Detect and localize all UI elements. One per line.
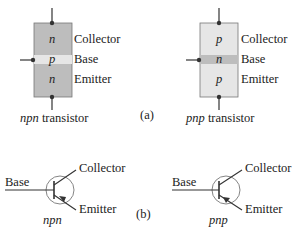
npn-symbol-caption: npn [43,213,62,227]
part-a-label: (a) [140,108,154,122]
npn-symbol-collector: Collector [79,161,126,175]
npn-emitter-label: Emitter [74,72,112,86]
pnp-symbol-caption: pnp [208,213,228,227]
pnp-collector-label: Collector [241,32,288,46]
npn-symbol-emitter: Emitter [79,202,117,216]
pnp-layer-emitter: p [215,72,222,86]
pnp-layer-collector: p [215,32,222,46]
pnp-symbol-base: Base [172,175,197,189]
npn-base-label: Base [74,52,99,66]
npn-block: n p n Collector Base Emitter npn transis… [20,8,121,125]
pnp-base-label: Base [241,52,266,66]
npn-layer-collector: n [49,32,55,46]
npn-symbol-base: Base [5,175,30,189]
pnp-caption: pnp transistor [185,111,255,125]
part-b-label: (b) [136,207,151,221]
pnp-symbol-collector: Collector [245,161,292,175]
npn-symbol: Base Collector Emitter npn [5,161,126,227]
pnp-symbol-emitter: Emitter [245,202,283,216]
pnp-layer-base: n [216,52,222,66]
npn-caption: npn transistor [20,111,89,125]
pnp-symbol: Base Collector Emitter pnp [172,161,292,227]
transistor-diagram: n p n Collector Base Emitter npn transis… [0,0,303,227]
npn-collector-label: Collector [74,32,121,46]
npn-layer-base: p [48,52,55,66]
pnp-emitter-label: Emitter [241,72,279,86]
pnp-block: p n p Collector Base Emitter pnp transis… [185,8,288,125]
npn-layer-emitter: n [49,72,55,86]
